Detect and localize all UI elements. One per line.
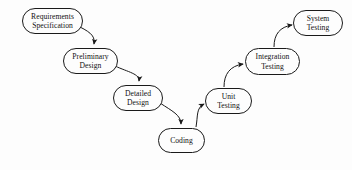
diagram-canvas: Requirements Specification Preliminary D…	[0, 0, 352, 170]
node-detailed-design[interactable]: Detailed Design	[113, 85, 163, 111]
node-label-line1: Unit	[222, 92, 236, 101]
edge-requirements-to-preliminary	[80, 27, 94, 44]
node-coding[interactable]: Coding	[158, 128, 205, 153]
node-label-line1: System	[307, 14, 330, 23]
node-integration-testing[interactable]: Integration Testing	[245, 48, 300, 75]
edge-coding-to-unit	[196, 104, 204, 127]
node-label-line1: Integration	[256, 52, 290, 61]
node-label-line1: Coding	[170, 136, 193, 145]
edge-detailed-to-coding	[160, 103, 181, 124]
edge-preliminary-to-detailed	[115, 66, 139, 81]
node-label-line2: Specification	[32, 21, 73, 30]
node-requirements-specification[interactable]: Requirements Specification	[22, 8, 83, 34]
node-label-line1: Detailed	[125, 89, 151, 98]
node-system-testing[interactable]: System Testing	[293, 10, 343, 36]
node-label-line1: Preliminary	[72, 52, 108, 61]
node-label-line2: Design	[80, 61, 102, 70]
edge-unit-to-integration	[224, 64, 243, 87]
node-label-line2: Design	[127, 98, 149, 107]
node-unit-testing[interactable]: Unit Testing	[205, 88, 252, 114]
edge-integration-to-system	[274, 25, 292, 47]
node-label-line2: Testing	[217, 101, 240, 110]
node-label-line2: Testing	[261, 62, 284, 71]
node-label-line2: Testing	[307, 23, 330, 32]
node-label-line1: Requirements	[31, 12, 74, 21]
node-preliminary-design[interactable]: Preliminary Design	[63, 48, 118, 74]
